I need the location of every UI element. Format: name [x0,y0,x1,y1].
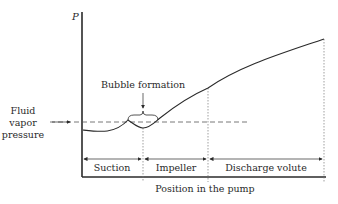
region-volute-label: Discharge volute [225,162,307,173]
bubble-brace [128,111,158,120]
vapor-label-line3: pressure [2,129,45,140]
pump-pressure-diagram: P Bubble formation Fluid vapor pressure … [0,0,338,204]
vapor-label-line2: vapor [8,117,37,128]
region-impeller-label: Impeller [156,162,197,173]
vapor-label-line1: Fluid [11,105,36,116]
x-axis-label: Position in the pump [155,183,254,194]
bubble-formation-label: Bubble formation [101,79,185,90]
region-suction-label: Suction [94,162,131,173]
y-axis-label: P [71,11,79,22]
